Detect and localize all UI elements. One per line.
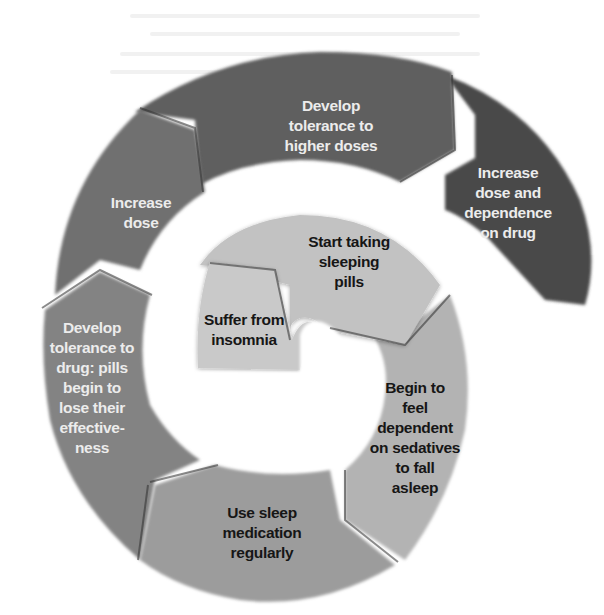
step-4-label: Use sleep medication regularly (223, 503, 302, 563)
step-7-label: Develop tolerance to higher doses (285, 96, 378, 156)
step-2-label: Start taking sleeping pills (308, 232, 390, 292)
spiral-diagram: Suffer from insomnia Start taking sleepi… (0, 0, 604, 615)
step-5-label: Develop tolerance to drug: pills begin t… (50, 318, 134, 458)
step-3-label: Begin to feel dependent on sedatives to … (370, 378, 460, 498)
step-8-label: Increase dose and dependence on drug (464, 163, 551, 243)
spiral-graphic (0, 0, 604, 615)
step-1-label: Suffer from insomnia (204, 310, 284, 350)
step-6-label: Increase dose (111, 193, 172, 233)
